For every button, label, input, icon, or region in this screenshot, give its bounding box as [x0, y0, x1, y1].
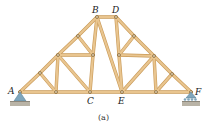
truss-members — [20, 17, 191, 92]
label-e: E — [117, 96, 125, 106]
truss-member-A-n1 — [20, 73, 40, 92]
pin-joint-n5 — [153, 55, 156, 58]
truss-member-m2-n5 — [119, 55, 154, 56]
pin-joint-n1 — [39, 72, 42, 75]
pin-joint-B — [96, 16, 99, 19]
pin-joint-n4 — [133, 35, 136, 38]
pin-joint-D — [115, 16, 118, 19]
pin-joint-n2 — [57, 54, 60, 57]
truss-member-n2-C — [58, 55, 90, 92]
truss-member-n1-n2 — [40, 55, 58, 73]
pin-joint-b2 — [155, 91, 158, 94]
truss-member-n1-b1 — [40, 73, 56, 92]
truss-member-n2-n3 — [58, 36, 78, 55]
label-f: F — [194, 87, 202, 97]
truss-member-D-m2 — [116, 17, 119, 55]
truss-member-m1-C — [90, 55, 93, 92]
pin-joint-C — [89, 91, 92, 94]
truss-diagram: A B C D E F (a) — [0, 0, 209, 131]
truss-member-n5-n6 — [154, 56, 172, 74]
pin-joint-E — [121, 91, 124, 94]
figure-caption: (a) — [98, 113, 109, 122]
truss-member-n4-n5 — [134, 36, 154, 56]
pin-joint-b1 — [55, 91, 58, 94]
label-b: B — [91, 5, 99, 15]
pin-joint-m2 — [118, 54, 121, 57]
truss-member-n6-F — [172, 74, 191, 92]
label-d: D — [111, 5, 119, 15]
pin-joint-n6 — [171, 73, 174, 76]
truss-member-b2-n6 — [156, 74, 172, 92]
pin-joint-n3 — [77, 35, 80, 38]
label-c: C — [87, 96, 94, 106]
truss-member-n4-m2 — [119, 36, 134, 55]
truss-member-n3-m1 — [78, 36, 93, 55]
label-a: A — [7, 86, 15, 96]
truss-member-n5-E — [122, 56, 154, 92]
pin-joint-m1 — [92, 54, 95, 57]
